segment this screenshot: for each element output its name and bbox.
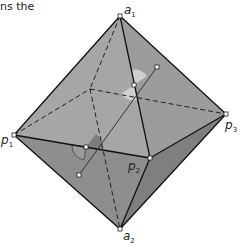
label-a2: a2	[123, 229, 135, 245]
label-p3: p3	[224, 118, 237, 134]
label-p1: p1	[0, 133, 13, 149]
octahedron-diagram: a1 p1 p3 p2 a2	[0, 0, 240, 246]
label-a1: a1	[124, 3, 136, 19]
